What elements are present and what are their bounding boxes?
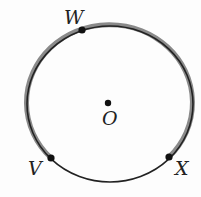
label-v: V	[28, 157, 44, 179]
label-w: W	[64, 6, 85, 28]
label-x: X	[173, 157, 190, 179]
circle-figure: W V X O	[0, 0, 201, 197]
point-o	[105, 100, 111, 106]
point-v	[47, 154, 54, 161]
circle-diagram: W V X O	[0, 0, 201, 197]
highlighted-arc-vwx	[26, 25, 192, 158]
point-x	[165, 153, 172, 160]
label-o: O	[102, 107, 118, 129]
